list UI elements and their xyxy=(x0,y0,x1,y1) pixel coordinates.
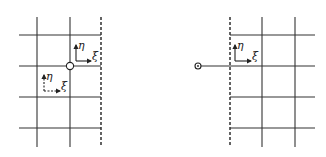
coordinate-frame-solid: η ξ xyxy=(76,39,99,63)
xi-label: ξ xyxy=(252,50,259,63)
eta-label: η xyxy=(46,70,53,83)
coordinate-frame-dashed: η ξ xyxy=(44,70,68,93)
ghost-node-center-icon xyxy=(197,65,199,67)
eta-label: η xyxy=(78,39,85,52)
right-panel: η ξ xyxy=(195,17,315,147)
eta-label: η xyxy=(237,39,244,52)
open-node-icon xyxy=(66,62,73,69)
xi-label: ξ xyxy=(61,80,68,93)
coordinate-frame-solid: η ξ xyxy=(235,39,259,63)
xi-label: ξ xyxy=(92,50,99,63)
grid-diagram: η ξ η ξ η ξ xyxy=(0,0,326,157)
left-panel: η ξ η ξ xyxy=(19,17,101,147)
